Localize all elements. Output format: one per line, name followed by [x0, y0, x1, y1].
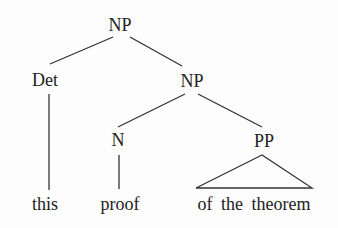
edge-np_sub-pp	[198, 94, 262, 127]
node-n: N	[112, 130, 125, 150]
leaf-of-the-theorem: of the theorem	[198, 194, 311, 214]
leaf-this: this	[32, 194, 58, 214]
edge-np_root-np_sub	[130, 37, 182, 66]
node-pp: PP	[254, 131, 274, 151]
node-np-root: NP	[108, 15, 131, 35]
edge-np_root-det	[50, 37, 113, 64]
syntax-tree-diagram: NP Det NP N PP this proof of the theorem	[0, 0, 338, 228]
pp-triangle-abbreviation	[196, 155, 312, 188]
edge-np_sub-n	[118, 94, 185, 127]
tree-edges	[49, 37, 262, 190]
node-np-sub: NP	[180, 71, 203, 91]
node-det: Det	[32, 70, 58, 90]
leaf-proof: proof	[101, 194, 140, 214]
